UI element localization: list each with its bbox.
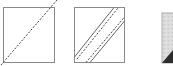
square-outline [75, 8, 125, 63]
step-3-fabric-square [162, 13, 173, 63]
step-2-square [75, 8, 125, 63]
hst-diagram [0, 0, 173, 66]
square-outline [4, 8, 55, 63]
step-1-square [1, 0, 57, 65]
